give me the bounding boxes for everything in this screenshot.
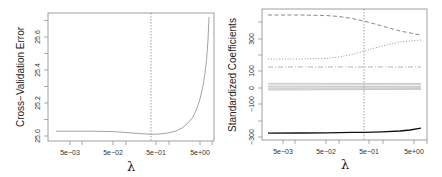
y-tick-label: −300 [248,129,255,145]
y-tick-label: 25.4 [34,63,41,77]
x-axis-ticks [283,140,427,144]
x-axis-title: λ [127,159,135,174]
coef-lines-near-zero [268,83,421,90]
y-axis-title: Cross−Validation Error [15,26,26,127]
x-axis-labels: 5e−03 5e−02 5e−01 5e+00 [60,149,210,156]
x-tick-label: 5e−02 [103,149,123,156]
x-tick-label: 5e−02 [316,148,336,155]
x-axis-ticks [70,141,212,145]
y-tick-label: 25.2 [34,96,41,110]
x-axis-labels: 5e−03 5e−02 5e−01 5e+00 [273,148,424,155]
y-tick-label: −100 [248,96,255,112]
x-tick-label: 5e+00 [190,149,210,156]
cv-error-curve [56,17,209,134]
plot-frame [262,9,427,140]
figure: 25.0 25.2 25.4 25.6 Cross−Validation Err… [0,0,442,177]
cv-error-chart: 25.0 25.2 25.4 25.6 Cross−Validation Err… [15,13,214,174]
coefficients-chart: −300 −100 0 100 300 Standardized Coeffic… [227,9,427,172]
y-axis-ticks [44,21,48,137]
coef-line-dotted [268,40,421,59]
y-axis-labels: −300 −100 0 100 300 [248,33,255,145]
x-tick-label: 5e−01 [359,148,379,155]
y-tick-label: 100 [248,65,255,77]
y-tick-label: 25.0 [34,129,41,143]
y-tick-label: 0 [248,86,255,90]
coef-line-dashed [268,15,421,35]
x-tick-label: 5e−03 [60,149,80,156]
x-tick-label: 5e+00 [404,148,424,155]
x-tick-label: 5e−03 [273,148,293,155]
y-axis-ticks [258,22,262,137]
x-tick-label: 5e−01 [146,149,166,156]
y-axis-labels: 25.0 25.2 25.4 25.6 [34,30,41,143]
y-tick-label: 25.6 [34,30,41,44]
x-axis-title: λ [341,157,349,172]
y-tick-label: 300 [248,33,255,45]
y-axis-title: Standardized Coefficients [227,18,238,132]
coef-line-black [268,128,421,133]
